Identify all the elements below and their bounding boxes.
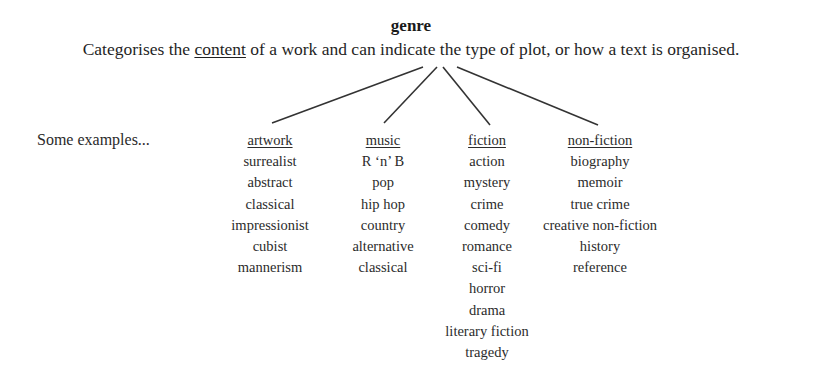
- category-item: literary fiction: [407, 321, 567, 342]
- category-item: creative non-fiction: [520, 215, 680, 236]
- connector-line-music: [384, 67, 437, 123]
- category-item: drama: [407, 300, 567, 321]
- connector-line-non-fiction: [457, 67, 598, 125]
- category-heading: non-fiction: [520, 130, 680, 151]
- category-item: horror: [407, 278, 567, 299]
- examples-label: Some examples...: [37, 129, 150, 151]
- category-column-non-fiction: non-fiction biography memoir true crime …: [520, 130, 680, 278]
- connector-line-artwork: [272, 67, 423, 123]
- category-item: biography: [520, 151, 680, 172]
- category-item: reference: [520, 257, 680, 278]
- category-item: history: [520, 236, 680, 257]
- category-item: tragedy: [407, 342, 567, 363]
- connector-line-fiction: [443, 67, 490, 125]
- category-item: true crime: [520, 194, 680, 215]
- category-item: memoir: [520, 172, 680, 193]
